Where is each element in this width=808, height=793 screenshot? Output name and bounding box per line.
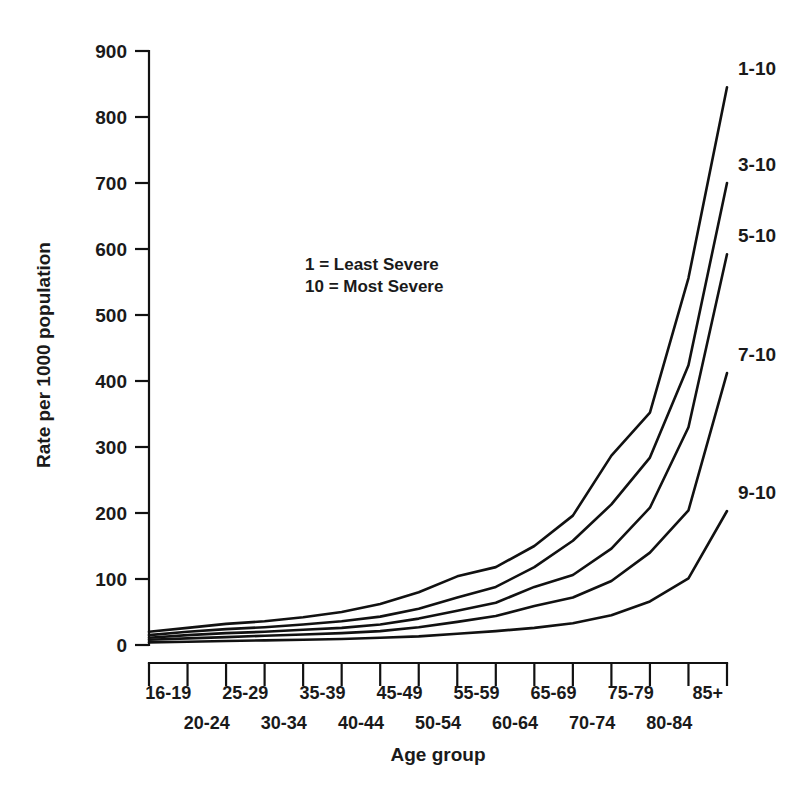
y-tick-label-400: 400 bbox=[95, 371, 127, 392]
y-tick-label-500: 500 bbox=[95, 305, 127, 326]
x-tick-label-55-59: 55-59 bbox=[454, 683, 500, 703]
series-label-3-10: 3-10 bbox=[738, 154, 776, 175]
series-labels: 1-103-105-107-109-10 bbox=[738, 58, 776, 503]
series-label-7-10: 7-10 bbox=[738, 344, 776, 365]
y-axis-ticks: 0100200300400500600700800900 bbox=[95, 41, 149, 656]
x-tick-label-30-34: 30-34 bbox=[261, 713, 307, 733]
y-tick-label-300: 300 bbox=[95, 437, 127, 458]
severity-note: 1 = Least Severe 10 = Most Severe bbox=[305, 255, 443, 296]
annotation-least-severe: 1 = Least Severe bbox=[305, 255, 439, 274]
x-tick-label-35-39: 35-39 bbox=[299, 683, 345, 703]
x-tick-label-75-79: 75-79 bbox=[608, 683, 654, 703]
x-tick-label-70-74: 70-74 bbox=[569, 713, 615, 733]
y-tick-label-200: 200 bbox=[95, 503, 127, 524]
x-tick-label-45-49: 45-49 bbox=[376, 683, 422, 703]
x-tick-label-85+: 85+ bbox=[692, 683, 723, 703]
annotation-most-severe: 10 = Most Severe bbox=[305, 277, 443, 296]
series-line-3-10 bbox=[149, 183, 727, 635]
x-tick-label-20-24: 20-24 bbox=[184, 713, 230, 733]
x-tick-label-25-29: 25-29 bbox=[222, 683, 268, 703]
y-tick-label-600: 600 bbox=[95, 239, 127, 260]
y-tick-label-900: 900 bbox=[95, 41, 127, 62]
y-axis: 0100200300400500600700800900 Rate per 10… bbox=[33, 41, 149, 656]
series-label-5-10: 5-10 bbox=[738, 225, 776, 246]
x-tick-label-16-19: 16-19 bbox=[145, 683, 191, 703]
series-lines bbox=[149, 87, 727, 642]
x-axis-tick-labels: 16-1920-2425-2930-3435-3940-4445-4950-54… bbox=[145, 683, 723, 733]
x-axis-title: Age group bbox=[391, 744, 486, 765]
y-tick-label-0: 0 bbox=[116, 635, 127, 656]
x-tick-label-60-64: 60-64 bbox=[492, 713, 538, 733]
y-tick-label-700: 700 bbox=[95, 173, 127, 194]
series-line-7-10 bbox=[149, 373, 727, 640]
x-tick-label-40-44: 40-44 bbox=[338, 713, 384, 733]
x-tick-label-50-54: 50-54 bbox=[415, 713, 461, 733]
line-chart: 0100200300400500600700800900 Rate per 10… bbox=[0, 0, 808, 793]
chart-container: 0100200300400500600700800900 Rate per 10… bbox=[0, 0, 808, 793]
x-tick-label-65-69: 65-69 bbox=[531, 683, 577, 703]
x-tick-label-80-84: 80-84 bbox=[646, 713, 692, 733]
y-tick-label-800: 800 bbox=[95, 107, 127, 128]
y-axis-title: Rate per 1000 population bbox=[33, 242, 54, 468]
series-label-9-10: 9-10 bbox=[738, 482, 776, 503]
series-label-1-10: 1-10 bbox=[738, 58, 776, 79]
series-line-5-10 bbox=[149, 254, 727, 637]
series-line-1-10 bbox=[149, 87, 727, 632]
x-axis: 16-1920-2425-2930-3435-3940-4445-4950-54… bbox=[145, 663, 727, 765]
y-tick-label-100: 100 bbox=[95, 569, 127, 590]
